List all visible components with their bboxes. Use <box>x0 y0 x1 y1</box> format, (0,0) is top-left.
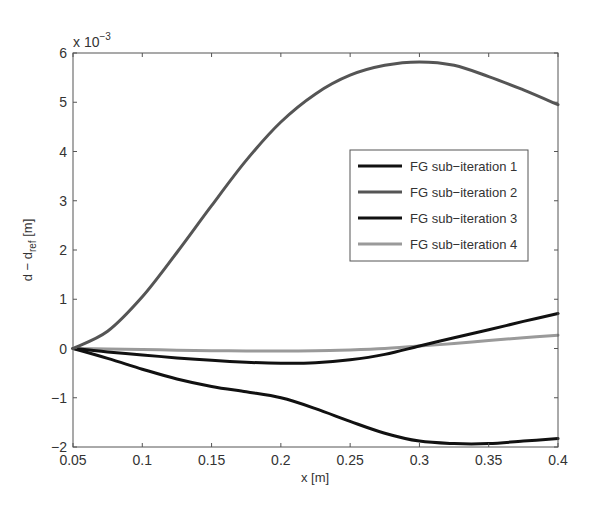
y-tick-label: −1 <box>51 390 67 406</box>
legend-label-1: FG sub−iteration 1 <box>410 159 517 174</box>
x-tick-label: 0.25 <box>337 452 364 468</box>
x-tick-label: 0.1 <box>133 452 153 468</box>
y-tick-label: 0 <box>59 341 67 357</box>
y-tick-label: 2 <box>59 242 67 258</box>
x-tick-label: 0.35 <box>475 452 502 468</box>
x-tick-label: 0.4 <box>548 452 568 468</box>
y-tick-label: 5 <box>59 94 67 110</box>
legend-label-3: FG sub−iteration 3 <box>410 211 517 226</box>
y-tick-label: 6 <box>59 45 67 61</box>
x-tick-label: 0.2 <box>271 452 291 468</box>
x-tick-label: 0.3 <box>410 452 430 468</box>
legend-label-4: FG sub−iteration 4 <box>410 237 517 252</box>
x-axis-label: x [m] <box>301 470 329 485</box>
y-tick-label: 3 <box>59 193 67 209</box>
legend-label-2: FG sub−iteration 2 <box>410 185 517 200</box>
x-tick-label: 0.15 <box>198 452 225 468</box>
legend: FG sub−iteration 1FG sub−iteration 2FG s… <box>350 150 528 261</box>
y-tick-label: −2 <box>51 439 67 455</box>
y-tick-label: 1 <box>59 291 67 307</box>
y-tick-label: 4 <box>59 144 67 160</box>
line-chart: 0.050.10.150.20.250.30.350.4 −2−10123456… <box>0 0 595 510</box>
